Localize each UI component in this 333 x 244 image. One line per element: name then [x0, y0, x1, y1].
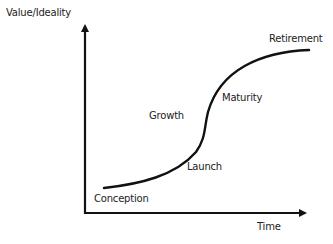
stage-label-maturity: Maturity — [222, 93, 262, 103]
stage-label-conception: Conception — [94, 194, 149, 204]
x-axis-label: Time — [257, 222, 281, 232]
stage-label-retirement: Retirement — [269, 34, 323, 44]
stage-label-growth: Growth — [149, 111, 184, 121]
y-axis-label: Value/Ideality — [6, 8, 71, 18]
stage-label-launch: Launch — [187, 162, 222, 172]
